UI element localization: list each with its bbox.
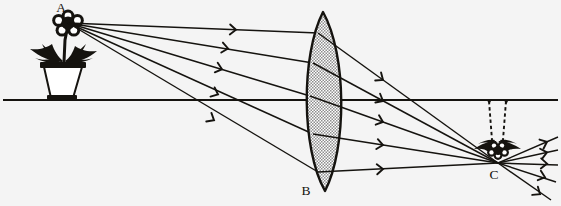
- pot-rim: [40, 62, 86, 68]
- diagram-canvas: A B C: [0, 0, 561, 206]
- pot-base: [47, 95, 77, 100]
- label-c: C: [489, 167, 498, 182]
- image-flower-center-point-c: [493, 146, 502, 155]
- label-b: B: [301, 183, 310, 198]
- optics-diagram-figure: A B C: [0, 0, 561, 206]
- label-a: A: [56, 0, 66, 15]
